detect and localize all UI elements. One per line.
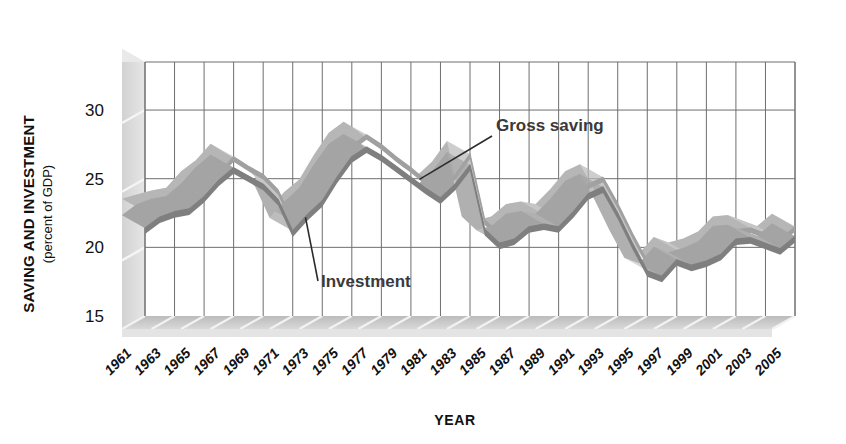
x-tick-label: 1979	[367, 345, 400, 378]
y-tick-label: 15	[85, 307, 104, 326]
saving-investment-chart: 30252015 1961196319651967196919711973197…	[0, 0, 846, 444]
x-tick-label: 1963	[131, 345, 164, 378]
x-tick-label: 1995	[603, 345, 636, 378]
y-axis-subtitle: (percent of GDP)	[40, 165, 55, 263]
x-tick-label: 1991	[544, 345, 577, 378]
x-tick-label: 2005	[750, 345, 784, 379]
x-tick-label: 1975	[308, 345, 341, 378]
x-tick-label: 1977	[337, 344, 371, 378]
floor-front-edge	[122, 329, 772, 337]
y-axis-title: SAVING AND INVESTMENT	[20, 115, 37, 313]
x-tick-label: 1965	[160, 345, 193, 378]
y-tick-label: 20	[85, 238, 104, 257]
x-axis-ticks: 1961196319651967196919711973197519771979…	[101, 344, 785, 379]
wall-top-cap	[122, 49, 145, 62]
x-tick-label: 1961	[101, 345, 134, 378]
x-tick-label: 1973	[278, 345, 311, 378]
x-tick-label: 1983	[426, 345, 459, 378]
y-axis-ticks: 30252015	[85, 101, 104, 326]
x-axis-title: YEAR	[434, 412, 475, 428]
x-tick-label: 1997	[633, 344, 667, 378]
x-tick-label: 1999	[662, 345, 695, 378]
x-tick-label: 1967	[190, 344, 224, 378]
chart-figure: 30252015 1961196319651967196919711973197…	[0, 0, 846, 444]
x-tick-label: 1987	[485, 344, 519, 378]
x-tick-label: 1985	[456, 345, 489, 378]
y-tick-label: 25	[85, 170, 104, 189]
x-tick-label: 1993	[574, 345, 607, 378]
x-tick-label: 2001	[691, 345, 725, 379]
x-tick-label: 1989	[515, 345, 548, 378]
gross-saving-label: Gross saving	[496, 116, 604, 135]
y-axis-title-group: SAVING AND INVESTMENT (percent of GDP)	[20, 115, 55, 313]
x-tick-label: 2003	[721, 345, 755, 379]
x-tick-label: 1981	[397, 345, 430, 378]
x-tick-label: 1971	[249, 345, 282, 378]
y-tick-label: 30	[85, 101, 104, 120]
investment-label: Investment	[321, 272, 411, 291]
x-tick-label: 1969	[219, 345, 252, 378]
